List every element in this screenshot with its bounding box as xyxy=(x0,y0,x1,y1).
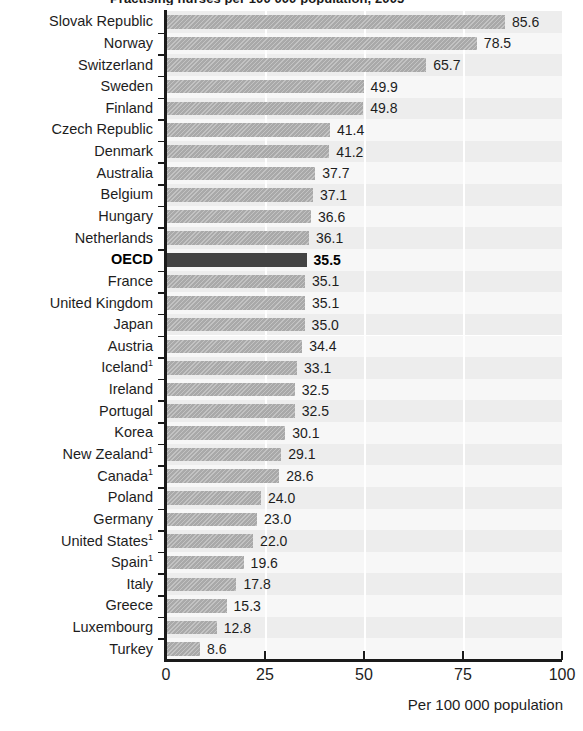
y-label-luxembourg: Luxembourg xyxy=(0,620,153,635)
bar-value-label: 35.1 xyxy=(312,296,339,310)
bar-value-label: 17.8 xyxy=(243,577,270,591)
bar-value-label: 37.1 xyxy=(320,188,347,202)
y-label-greece: Greece xyxy=(0,598,153,613)
bar-value-label: 49.9 xyxy=(371,80,398,94)
y-label-korea: Korea xyxy=(0,425,153,440)
bar-value-label: 15.3 xyxy=(234,599,261,613)
x-axis-tick-75 xyxy=(462,651,464,660)
x-axis-tick-0 xyxy=(165,651,167,660)
x-tick-label-0: 0 xyxy=(162,667,171,683)
y-axis-tick xyxy=(158,400,165,402)
bar-value-label: 35.1 xyxy=(312,274,339,288)
x-tick-label-100: 100 xyxy=(549,667,576,683)
y-axis-tick xyxy=(158,617,165,619)
y-label-turkey: Turkey xyxy=(0,642,153,657)
y-axis-tick xyxy=(158,487,165,489)
y-axis-tick xyxy=(158,249,165,251)
y-label-united-states: United States1 xyxy=(0,534,153,549)
bar-value-label: 65.7 xyxy=(433,58,460,72)
y-label-switzerland: Switzerland xyxy=(0,58,153,73)
x-axis-tick-100 xyxy=(561,651,563,660)
footnote-marker: 1 xyxy=(148,359,153,369)
y-label-denmark: Denmark xyxy=(0,144,153,159)
bar-value-label: 35.5 xyxy=(314,253,341,267)
y-axis-tick xyxy=(158,33,165,35)
bar-value-label: 35.0 xyxy=(312,318,339,332)
bar-value-label: 49.8 xyxy=(370,101,397,115)
y-axis-tick xyxy=(158,54,165,56)
footnote-marker: 1 xyxy=(148,467,153,477)
chart-title: Practising nurses per 100 000 population… xyxy=(110,0,510,5)
y-axis-tick xyxy=(158,444,165,446)
footnote-marker: 1 xyxy=(148,553,153,563)
y-axis-tick xyxy=(158,184,165,186)
y-axis-tick xyxy=(158,336,165,338)
y-axis-tick xyxy=(158,509,165,511)
y-axis-tick xyxy=(158,465,165,467)
y-label-germany: Germany xyxy=(0,512,153,527)
bar-value-label: 32.5 xyxy=(302,404,329,418)
y-label-norway: Norway xyxy=(0,36,153,51)
bar-value-label: 24.0 xyxy=(268,491,295,505)
y-label-sweden: Sweden xyxy=(0,79,153,94)
bar-value-label: 30.1 xyxy=(292,426,319,440)
bar-value-labels: 85.678.565.749.949.841.441.237.737.136.6… xyxy=(166,11,583,660)
y-label-slovak-republic: Slovak Republic xyxy=(0,14,153,29)
y-axis-tick xyxy=(158,638,165,640)
bar-value-label: 33.1 xyxy=(304,361,331,375)
x-axis-tick-50 xyxy=(363,651,365,660)
x-tick-label-75: 75 xyxy=(454,667,472,683)
y-axis-tick xyxy=(158,314,165,316)
footnote-marker: 1 xyxy=(148,445,153,455)
bar-value-label: 37.7 xyxy=(322,166,349,180)
y-axis-tick xyxy=(158,573,165,575)
x-tick-label-50: 50 xyxy=(355,667,373,683)
y-axis-tick xyxy=(158,227,165,229)
y-axis-tick xyxy=(158,119,165,121)
bar-value-label: 78.5 xyxy=(484,36,511,50)
y-label-netherlands: Netherlands xyxy=(0,231,153,246)
y-axis-tick xyxy=(158,595,165,597)
y-axis-tick xyxy=(158,530,165,532)
y-label-czech-republic: Czech Republic xyxy=(0,122,153,137)
y-axis-tick xyxy=(158,422,165,424)
y-axis-tick xyxy=(158,162,165,164)
x-tick-label-25: 25 xyxy=(256,667,274,683)
y-label-spain: Spain1 xyxy=(0,555,153,570)
footnote-marker: 1 xyxy=(148,532,153,542)
bar-value-label: 34.4 xyxy=(309,339,336,353)
y-axis-tick xyxy=(158,292,165,294)
y-label-japan: Japan xyxy=(0,317,153,332)
y-label-iceland: Iceland1 xyxy=(0,360,153,375)
bar-chart-figure: Practising nurses per 100 000 population… xyxy=(0,0,583,731)
y-label-france: France xyxy=(0,274,153,289)
y-label-hungary: Hungary xyxy=(0,209,153,224)
y-label-new-zealand: New Zealand1 xyxy=(0,447,153,462)
y-label-austria: Austria xyxy=(0,339,153,354)
y-axis-tick xyxy=(158,76,165,78)
bar-value-label: 19.6 xyxy=(251,556,278,570)
bar-value-label: 41.2 xyxy=(336,145,363,159)
x-axis-title: Per 100 000 population xyxy=(408,697,563,712)
bar-value-label: 41.4 xyxy=(337,123,364,137)
y-label-poland: Poland xyxy=(0,490,153,505)
bar-value-label: 28.6 xyxy=(286,469,313,483)
bar-value-label: 12.8 xyxy=(224,621,251,635)
bar-value-label: 23.0 xyxy=(264,512,291,526)
y-axis-tick xyxy=(158,206,165,208)
y-label-belgium: Belgium xyxy=(0,187,153,202)
bar-value-label: 36.6 xyxy=(318,210,345,224)
y-axis-tick xyxy=(158,271,165,273)
bar-value-label: 32.5 xyxy=(302,383,329,397)
y-label-finland: Finland xyxy=(0,101,153,116)
bar-value-label: 36.1 xyxy=(316,231,343,245)
y-label-ireland: Ireland xyxy=(0,382,153,397)
y-label-canada: Canada1 xyxy=(0,469,153,484)
y-label-oecd: OECD xyxy=(0,252,153,267)
bar-value-label: 29.1 xyxy=(288,447,315,461)
x-axis-tick-25 xyxy=(264,651,266,660)
y-axis-tick xyxy=(158,141,165,143)
y-axis-tick xyxy=(158,98,165,100)
y-axis-tick xyxy=(158,552,165,554)
y-axis-category-labels: Slovak RepublicNorwaySwitzerlandSwedenFi… xyxy=(0,11,159,660)
